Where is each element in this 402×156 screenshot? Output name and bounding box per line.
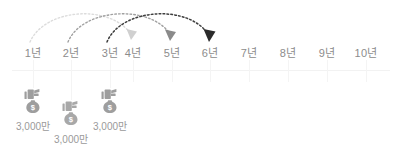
maturity-arc-2-path [68,14,170,42]
deposit-amount-label: 3,000만 [54,131,88,146]
year-label-8: 8년 [280,44,297,60]
maturity-arc-3 [107,14,216,42]
timeline-diagram: 1년2년3년4년5년6년7년8년9년10년 $3,000만$3,000만$3,0… [0,0,402,156]
maturity-arc-3-arrowhead [204,29,216,42]
year-label-9: 9년 [319,44,336,60]
year-label-4: 4년 [125,44,142,60]
deposit-connector-line [110,71,111,88]
year-label-3: 3년 [102,44,119,60]
maturity-arc-2-arrowhead [165,30,176,42]
year-label-6: 6년 [202,44,219,60]
deposit-amount-label: 3,000만 [93,118,127,133]
year-label-5: 5년 [164,44,181,60]
money-bag-icon: $ [99,88,121,114]
maturity-arc-1-path [30,14,131,42]
maturity-arc-2 [68,14,176,42]
deposit-amount-label: 3,000만 [16,118,50,133]
year-label-2: 2년 [63,44,80,60]
money-bag-icon: $ [22,88,44,114]
year-label-1: 1년 [25,44,42,60]
deposit-connector-line [71,71,72,100]
deposit-connector-line [33,71,34,88]
money-bag-icon: $ [60,100,82,126]
timeline-tick [172,60,173,82]
year-label-7: 7년 [241,44,258,60]
timeline-tick [288,60,289,82]
maturity-arc-3-path [107,14,208,42]
timeline-tick [133,60,134,82]
timeline-axis [12,70,390,71]
timeline-tick [366,60,367,82]
timeline-tick [210,60,211,82]
maturity-arc-1-arrowhead [127,29,138,40]
timeline-tick [249,60,250,82]
timeline-tick [327,60,328,82]
year-label-10: 10년 [355,44,378,60]
maturity-arc-1 [30,14,137,42]
